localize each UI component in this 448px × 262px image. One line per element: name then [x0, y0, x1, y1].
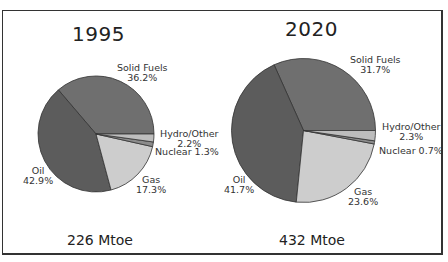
label-value: 41.7% — [224, 185, 254, 195]
total-1995: 226 Mtoe — [67, 232, 133, 248]
chart-title-1995: 1995 — [72, 22, 125, 46]
label-nuclear-1995: Nuclear 1.3% — [155, 147, 219, 157]
label-value: 23.6% — [348, 197, 378, 207]
label-solid-fuels-1995: Solid Fuels36.2% — [117, 63, 168, 83]
label-oil-2020: Oil41.7% — [224, 175, 254, 195]
label-value: 42.9% — [23, 176, 53, 186]
label-value: 2.3% — [382, 132, 440, 142]
label-nuclear-2020: Nuclear 0.7% — [379, 146, 443, 156]
label-oil-1995: Oil42.9% — [23, 166, 53, 186]
label-value: 17.3% — [136, 185, 166, 195]
total-2020: 432 Mtoe — [279, 232, 345, 248]
label-gas-1995: Gas17.3% — [136, 175, 166, 195]
label-value: 36.2% — [117, 73, 168, 83]
label-value: 31.7% — [350, 65, 401, 75]
label-solid-fuels-2020: Solid Fuels31.7% — [350, 55, 401, 75]
label-gas-2020: Gas23.6% — [348, 187, 378, 207]
pie-charts — [0, 0, 448, 262]
chart-title-2020: 2020 — [285, 17, 338, 41]
label-hydro-2020: Hydro/Other2.3% — [382, 122, 440, 142]
